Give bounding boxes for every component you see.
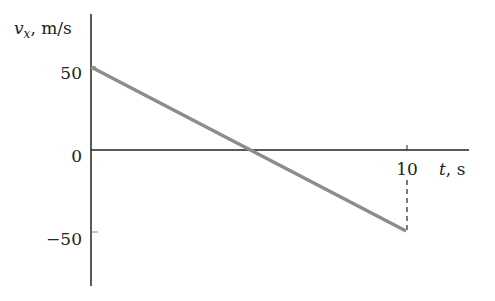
velocity-line: [91, 67, 406, 231]
x-axis-label: t, s: [439, 159, 465, 179]
y-axis-label-unit: , m/s: [30, 18, 71, 38]
y-axis-label-var: v: [14, 18, 24, 38]
y-axis-label: vx, m/s: [14, 18, 72, 41]
x-axis-label-unit: , s: [446, 159, 466, 179]
x-tick-label-10: 10: [396, 159, 418, 179]
velocity-time-chart: 50 0 −50 10 vx, m/s t, s: [0, 0, 495, 301]
y-tick-label-neg50: −50: [46, 229, 82, 249]
y-tick-label-50: 50: [60, 63, 82, 83]
y-tick-label-0: 0: [71, 146, 82, 166]
